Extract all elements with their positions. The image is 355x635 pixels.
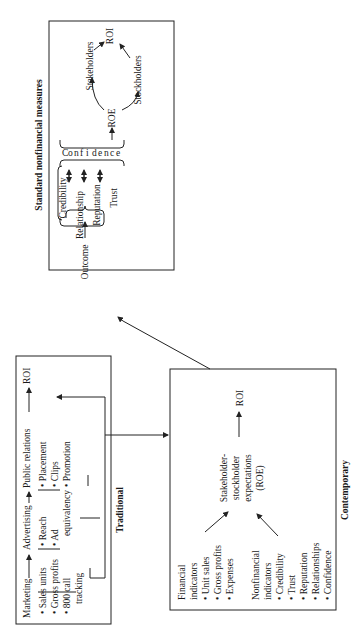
traditional-roi-label: ROI bbox=[22, 368, 32, 384]
stockholders-roi-arrow bbox=[120, 44, 130, 58]
outcome-label: Outcome bbox=[80, 245, 90, 280]
relationship-label: Relationship bbox=[75, 191, 85, 239]
confidence-letter: i bbox=[86, 148, 89, 158]
nonfinancial-bullet: • Trust bbox=[287, 574, 297, 600]
advertising-bullet: • Ad bbox=[50, 529, 60, 546]
nonfinancial-bullet: • Confidence bbox=[323, 551, 333, 601]
nonfinancial-bullet: • Reputation bbox=[299, 552, 309, 600]
contemporary-to-standard-line bbox=[123, 321, 210, 369]
public-relations-label: Public relations bbox=[22, 428, 32, 488]
trust-label: Trust bbox=[109, 188, 119, 208]
center-line: (ROE) bbox=[255, 465, 266, 490]
stakeholders-label: Stakeholders bbox=[85, 41, 95, 90]
contemporary-box: ROI Stakeholder- stockholder expectation… bbox=[170, 369, 350, 610]
center-line: Stakeholder- bbox=[219, 454, 229, 502]
nonfinancial-heading: Nonfinancial bbox=[251, 550, 261, 600]
financial-heading: indicators bbox=[189, 562, 199, 600]
confidence-letter: n bbox=[74, 148, 79, 158]
marketing-bullet: • Sales units bbox=[38, 567, 48, 614]
confidence-letter: d bbox=[92, 148, 97, 158]
diagram-canvas: Standard nonfinancial measures Outcome C… bbox=[0, 0, 355, 635]
confidence-letter: f bbox=[80, 148, 84, 158]
standard-measures-box: Standard nonfinancial measures Outcome C… bbox=[34, 21, 174, 279]
credibility-label: Credibility bbox=[58, 177, 68, 218]
financial-bullet: • Gross profits bbox=[213, 545, 223, 600]
pr-bullet: • Promotion bbox=[62, 441, 72, 487]
contemporary-roi-label: ROI bbox=[235, 390, 245, 406]
outcome-input-arrow bbox=[118, 317, 123, 321]
marketing-bullet: • 800 call bbox=[62, 578, 72, 614]
financial-bullet: • Expenses bbox=[225, 558, 235, 600]
confidence-letter: o bbox=[68, 148, 73, 158]
center-line: stockholder bbox=[231, 455, 241, 500]
stockholders-label: Stockholders bbox=[133, 55, 143, 105]
reputation-label: Reputation bbox=[92, 184, 102, 226]
financial-heading: Financial bbox=[177, 564, 187, 600]
traditional-box: Marketing Advertising Public relations R… bbox=[16, 356, 125, 624]
nonfinancial-bullet: • Credibility bbox=[275, 553, 285, 600]
pr-bullet: • Placement bbox=[38, 441, 48, 487]
contemporary-title: Contemporary bbox=[340, 460, 350, 520]
marketing-label: Marketing bbox=[22, 578, 32, 618]
marketing-bullet: • Gross profits bbox=[50, 559, 60, 614]
traditional-title: Traditional bbox=[115, 487, 125, 533]
confidence-letter: e bbox=[116, 148, 120, 158]
center-line: expectations bbox=[243, 454, 253, 502]
advertising-bullet: • Reach bbox=[38, 516, 48, 546]
standard-roi-label: ROI bbox=[105, 28, 115, 44]
financial-arrow bbox=[205, 512, 228, 532]
stakeholders-roi-arrow bbox=[94, 42, 104, 50]
standard-box-title: Standard nonfinancial measures bbox=[34, 79, 44, 211]
confidence-letter: e bbox=[98, 148, 102, 158]
confidence-brace-top bbox=[60, 140, 124, 148]
nonfinancial-arrow bbox=[257, 514, 278, 536]
advertising-bullet: equivalency bbox=[62, 490, 72, 536]
confidence-letter: n bbox=[104, 148, 109, 158]
confidence-letter: c bbox=[110, 148, 114, 158]
nonfinancial-heading: indicators bbox=[263, 562, 273, 600]
roe-label: ROE bbox=[107, 108, 117, 127]
nonfinancial-bullet: • Relationships bbox=[311, 542, 321, 600]
confidence-brace-bottom bbox=[60, 160, 124, 166]
advertising-label: Advertising bbox=[22, 505, 32, 550]
financial-bullet: • Unit sales bbox=[201, 556, 211, 600]
marketing-bullet: tracking bbox=[74, 573, 84, 604]
pr-bullet: • Clips bbox=[50, 461, 60, 487]
